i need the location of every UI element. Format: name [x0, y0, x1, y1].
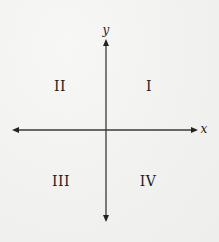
quadrant-label-i: I — [146, 79, 152, 93]
coordinate-plane: y x I II III IV — [0, 0, 219, 242]
quadrant-label-iv: IV — [140, 174, 157, 188]
x-axis-label: x — [201, 123, 208, 135]
x-axis-arrow-left-icon — [12, 127, 19, 133]
y-axis-arrow-down-icon — [103, 215, 109, 222]
x-axis-arrow-right-icon — [191, 127, 198, 133]
quadrant-label-ii: II — [54, 79, 66, 93]
quadrant-label-iii: III — [52, 174, 70, 188]
y-axis-label: y — [103, 24, 110, 36]
y-axis-arrow-up-icon — [103, 39, 109, 46]
